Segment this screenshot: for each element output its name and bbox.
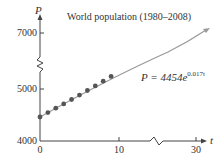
chart-title: World population (1980–2008) [67,11,191,23]
x-tick-0: 0 [38,144,43,155]
data-points [38,74,114,119]
y-axis [37,18,44,141]
curve-arrow-icon [203,28,210,33]
y-tick-7000: 7000 [17,27,37,38]
x-axis-arrow-icon [201,139,207,144]
population-chart: P t World population (1980–2008) 7000 50… [0,0,224,161]
x-axis-label: t [210,134,214,146]
equation-exponent: 0.017t [187,70,205,78]
y-tick-5000: 5000 [17,83,37,94]
x-tick-10: 10 [114,144,124,155]
y-axis-label: P [34,4,42,16]
model-equation: P = 4454e0.017t [140,70,205,83]
equation-main: P = 4454e [140,71,187,83]
y-tick-4000: 4000 [17,135,37,146]
x-tick-30: 30 [191,144,201,155]
